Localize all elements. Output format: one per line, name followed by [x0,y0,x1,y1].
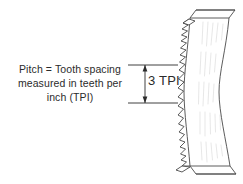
pitch-caption: Pitch = Tooth spacing measured in teeth … [8,62,132,105]
diagram-canvas: Pitch = Tooth spacing measured in teeth … [0,0,243,184]
arrowhead-top [143,65,148,72]
arrowhead-bottom [143,97,148,104]
blade-bottom-cap [176,166,236,174]
tpi-dimension-label: 3 TPI [148,73,180,88]
caption-line-3: inch (TPI) [8,90,132,104]
blade-top-cap [183,10,235,25]
caption-line-1: Pitch = Tooth spacing [8,62,132,76]
caption-line-2: measured in teeth per [8,76,132,90]
